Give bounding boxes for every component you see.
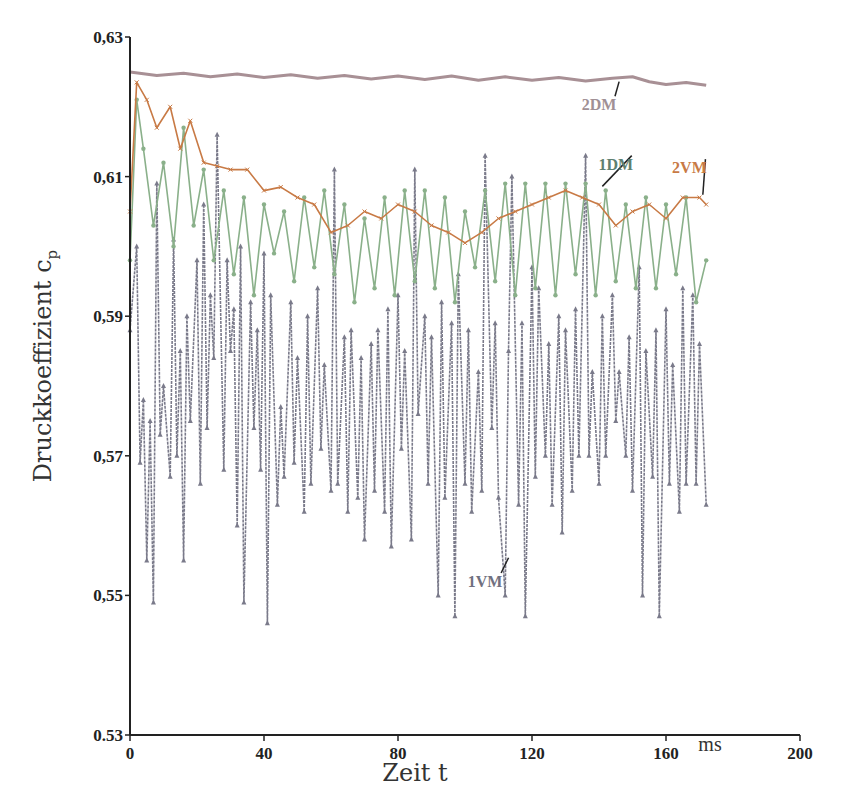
annotation-1vm: 1VM	[468, 558, 509, 590]
triangle-marker	[399, 446, 404, 451]
triangle-marker	[385, 306, 390, 311]
triangle-marker	[362, 537, 367, 542]
triangle-marker	[657, 613, 662, 618]
x-marker	[614, 223, 618, 227]
star-marker	[392, 293, 396, 297]
triangle-marker	[704, 502, 709, 507]
triangle-marker	[442, 495, 447, 500]
y-tick-label: 0,57	[93, 447, 123, 466]
triangle-marker	[158, 432, 163, 437]
series-1dm	[128, 98, 709, 305]
star-marker	[583, 181, 587, 185]
x-axis-title: Zeit t	[382, 759, 448, 787]
triangle-marker	[694, 481, 699, 486]
triangle-marker	[546, 341, 551, 346]
triangle-marker	[211, 355, 216, 360]
triangle-marker	[613, 418, 618, 423]
triangle-marker	[225, 257, 230, 262]
triangle-marker	[322, 362, 327, 367]
triangle-marker	[630, 488, 635, 493]
triangle-marker	[308, 481, 313, 486]
star-marker	[453, 300, 457, 304]
star-marker	[262, 202, 266, 206]
triangle-marker	[402, 348, 407, 353]
triangle-marker	[600, 313, 605, 318]
star-marker	[533, 286, 537, 290]
triangle-marker	[469, 509, 474, 514]
triangle-marker	[412, 167, 417, 172]
star-marker	[624, 202, 628, 206]
triangle-marker	[154, 181, 159, 186]
triangle-marker	[248, 299, 253, 304]
star-marker	[232, 272, 236, 276]
triangle-marker	[315, 285, 320, 290]
y-axis-title: Druckkoeffizient cp	[29, 250, 61, 482]
triangle-marker	[265, 620, 270, 625]
star-marker	[181, 126, 185, 130]
star-marker	[413, 279, 417, 283]
triangle-marker	[382, 509, 387, 514]
star-marker	[272, 251, 276, 255]
star-marker	[161, 160, 165, 164]
triangle-marker	[503, 592, 508, 597]
triangle-marker	[355, 495, 360, 500]
star-marker	[292, 279, 296, 283]
y-tick-label: 0,63	[93, 28, 123, 47]
leader-line	[615, 82, 619, 97]
triangle-marker	[603, 453, 608, 458]
triangle-marker	[623, 453, 628, 458]
y-tick-label: 0.53	[93, 726, 123, 745]
star-marker	[222, 188, 226, 192]
triangle-marker	[560, 530, 565, 535]
annotation-1dm: 1DM	[598, 156, 633, 187]
series-2dm	[130, 72, 706, 85]
star-marker	[614, 279, 618, 283]
triangle-marker	[416, 411, 421, 416]
star-marker	[604, 188, 608, 192]
triangle-marker	[409, 537, 414, 542]
x-axis-unit: ms	[698, 733, 722, 755]
star-marker	[322, 188, 326, 192]
triangle-marker	[506, 348, 511, 353]
triangle-marker	[653, 327, 658, 332]
x-marker	[704, 203, 708, 207]
series-label: 2DM	[582, 96, 617, 113]
triangle-marker	[509, 174, 514, 179]
triangle-marker	[255, 327, 260, 332]
series-1vm	[128, 132, 709, 626]
x-tick-label: 160	[653, 744, 679, 763]
triangle-marker	[188, 418, 193, 423]
triangle-marker	[208, 292, 213, 297]
star-marker	[493, 279, 497, 283]
star-marker	[463, 209, 467, 213]
triangle-marker	[586, 453, 591, 458]
triangle-marker	[134, 243, 139, 248]
triangle-marker	[178, 348, 183, 353]
triangle-marker	[550, 502, 555, 507]
triangle-marker	[235, 523, 240, 528]
star-marker	[573, 272, 577, 276]
star-marker	[654, 286, 658, 290]
triangle-marker	[275, 502, 280, 507]
triangle-marker	[483, 153, 488, 158]
star-marker	[423, 188, 427, 192]
star-marker	[372, 286, 376, 290]
star-marker	[171, 244, 175, 248]
y-axis-title-subscript: p	[43, 250, 61, 260]
star-marker	[433, 286, 437, 290]
star-marker	[473, 265, 477, 269]
triangle-marker	[161, 383, 166, 388]
triangle-marker	[228, 348, 233, 353]
triangle-marker	[563, 327, 568, 332]
star-marker	[212, 258, 216, 262]
star-marker	[332, 272, 336, 276]
triangle-marker	[221, 467, 226, 472]
x-tick-label: 200	[787, 744, 813, 763]
star-marker	[151, 223, 155, 227]
triangle-marker	[241, 599, 246, 604]
triangle-marker	[302, 509, 307, 514]
triangle-marker	[533, 474, 538, 479]
triangle-marker	[570, 488, 575, 493]
triangle-marker	[198, 481, 203, 486]
triangle-marker	[141, 397, 146, 402]
